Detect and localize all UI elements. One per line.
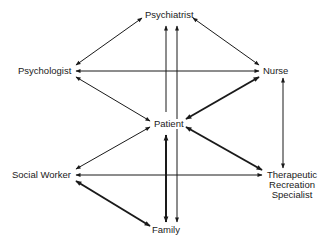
- node-patient: Patient: [153, 119, 185, 129]
- node-psychologist: Psychologist: [18, 66, 71, 76]
- node-psychiatrist: Psychiatrist: [145, 10, 194, 20]
- node-therapeutic-recreation-specialist: Therapeutic Recreation Specialist: [266, 170, 318, 200]
- node-social-worker: Social Worker: [12, 170, 71, 180]
- edge-psychologist-psychiatrist: [76, 18, 142, 65]
- edge-socialworker-family: [76, 181, 150, 226]
- edge-socialworker-patient: [76, 127, 150, 169]
- node-family: Family: [152, 225, 180, 235]
- edge-patient-therapeutic: [186, 127, 262, 170]
- edge-psychologist-patient: [76, 77, 150, 121]
- therapeutic-line-3: Specialist: [266, 190, 318, 200]
- node-nurse: Nurse: [263, 66, 288, 76]
- edge-psychiatrist-nurse: [193, 18, 259, 65]
- edge-patient-nurse: [186, 77, 259, 119]
